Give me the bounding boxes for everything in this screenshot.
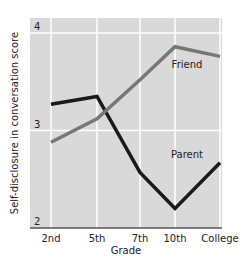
line-chart: 234 2nd5th7th10thCollege Grade Self-disc… bbox=[0, 0, 251, 266]
x-tick-label: 10th bbox=[164, 233, 187, 244]
series-label-parent: Parent bbox=[171, 149, 203, 160]
series-label-friend: Friend bbox=[172, 59, 203, 70]
y-tick-label: 3 bbox=[34, 119, 40, 130]
x-tick-label: 2nd bbox=[41, 233, 60, 244]
y-tick-label: 2 bbox=[34, 216, 40, 227]
y-axis-label: Self-disclosure in conversation score bbox=[9, 32, 20, 214]
y-tick-label: 4 bbox=[34, 21, 40, 32]
x-tick-labels: 2nd5th7th10thCollege bbox=[41, 233, 238, 244]
x-tick-label: College bbox=[201, 233, 238, 244]
x-tick-label: 5th bbox=[89, 233, 106, 244]
x-axis-label: Grade bbox=[111, 245, 142, 256]
x-tick-label: 7th bbox=[132, 233, 149, 244]
